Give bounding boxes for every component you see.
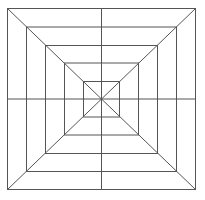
concentric-squares-diagram — [0, 0, 205, 200]
diagram-canvas — [0, 0, 205, 200]
spokes-group — [8, 9, 196, 190]
